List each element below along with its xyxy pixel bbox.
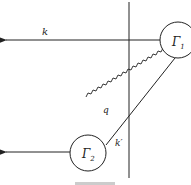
label-q: q <box>103 105 109 115</box>
label-k-prime: k′ <box>115 138 123 148</box>
caption-fragment <box>75 182 115 185</box>
line-k-prime <box>106 58 175 145</box>
label-k: k <box>42 26 48 37</box>
diagram-canvas: k k′ q Γ1 Γ2 <box>0 0 191 185</box>
line-q-wavy <box>86 48 163 97</box>
